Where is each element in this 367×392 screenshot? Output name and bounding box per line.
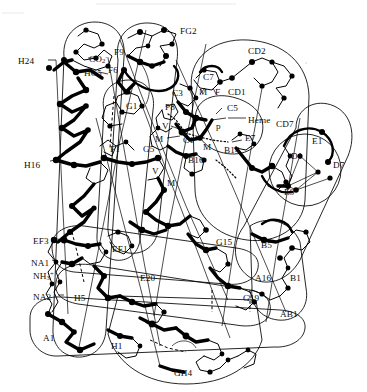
label-heme: Heme	[248, 116, 270, 125]
label-EF3: EF3	[33, 237, 49, 246]
label-NA1: NA1	[31, 259, 49, 268]
label-P8: P8	[165, 103, 175, 112]
label-E20: E20	[140, 274, 155, 283]
label-F1: F1	[110, 145, 120, 154]
label-CO2: CO2–	[89, 54, 109, 65]
scan-artifact-smear-top	[96, 3, 236, 5]
label-G15: G15	[216, 238, 232, 247]
label-F9: F9	[114, 48, 124, 57]
label-B16: B16	[188, 156, 204, 165]
label-C5: C5	[227, 104, 238, 113]
label-CD7: CD7	[276, 120, 294, 129]
label-CD2: CD2	[248, 47, 266, 56]
label-D1: D1	[291, 152, 302, 161]
label-B1: B1	[290, 274, 301, 283]
label-M-upper: M	[155, 135, 163, 144]
scan-artifact-smear-left	[2, 12, 24, 14]
label-B5: B5	[261, 241, 272, 250]
label-E9: E9	[284, 188, 294, 197]
chain-trace-B-lower-right	[252, 220, 310, 300]
label-D7: D7	[333, 161, 344, 170]
label-G1: G1	[126, 102, 137, 111]
label-NA2: NA2	[33, 293, 51, 302]
label-F-c7: F	[215, 88, 220, 97]
label-AB1: AB1	[280, 310, 298, 319]
label-EF1: EF1	[112, 245, 128, 254]
label-NH3: NH3+	[33, 271, 54, 282]
label-C7: C7	[203, 73, 214, 82]
label-FG2: FG2	[180, 27, 197, 36]
label-V-lower: V	[152, 167, 159, 176]
label-B14: B14	[224, 146, 240, 155]
label-V-upper: V	[162, 122, 169, 131]
myoglobin-diagram-figure: .env { fill:none; stroke:#000; stroke-wi…	[0, 0, 367, 392]
label-C3: C3	[172, 89, 183, 98]
label-M-mid: M	[203, 143, 211, 152]
label-A1: A1	[43, 334, 54, 343]
label-H1: H1	[111, 342, 122, 351]
label-A16: A16	[255, 274, 271, 283]
label-H24: H24	[18, 57, 34, 66]
label-M-lower: M	[167, 179, 175, 188]
label-HC5: HC5	[84, 69, 102, 78]
helix-envelopes	[30, 22, 352, 384]
label-E7: E7	[245, 134, 255, 143]
diagram-canvas: .env { fill:none; stroke:#000; stroke-wi…	[0, 0, 367, 392]
label-C1: C1	[183, 136, 194, 145]
label-p-heme: p	[216, 122, 221, 131]
label-CD1: CD1	[228, 88, 246, 97]
scan-artifact-speck	[305, 62, 307, 64]
label-H16: H16	[24, 161, 40, 170]
label-H5: H5	[74, 294, 85, 303]
label-M-c7: M	[199, 88, 207, 97]
label-E1: E1	[312, 137, 322, 146]
label-G19: G19	[243, 294, 259, 303]
label-G5: G5	[143, 145, 154, 154]
label-GH4: GH4	[174, 369, 192, 378]
label-F6: F6	[108, 66, 118, 75]
